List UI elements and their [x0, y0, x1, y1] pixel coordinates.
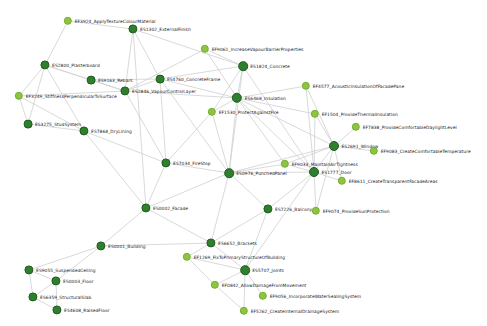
graph-node-ef4577[interactable]	[302, 82, 310, 90]
graph-node-label-ef0842: EF0842_AllowDamageFromMovement	[222, 283, 307, 288]
graph-node-es6359[interactable]	[28, 292, 37, 301]
graph-node-label-ef9083: EF9083_CreateComfortableTemperature	[381, 149, 471, 154]
graph-node-es9055[interactable]	[24, 265, 33, 274]
graph-node-label-ef8611: EF8611_CreateTransparentFacadeAreas	[349, 179, 438, 184]
graph-node-layer[interactable]: EF3924_ApplyTextureColourMaterialES1302_…	[0, 0, 487, 326]
graph-node-label-ef5262: EF5262_CreateInternalDrainageSystem	[251, 309, 339, 314]
graph-node-label-es4760: ES4760_ConcreteFrame	[167, 77, 220, 82]
graph-node-ef3249[interactable]	[15, 92, 23, 100]
graph-node-es0976[interactable]	[224, 168, 234, 178]
graph-node-es6468[interactable]	[232, 93, 242, 103]
graph-node-label-es0002: ES0002_Facade	[153, 206, 188, 211]
graph-node-label-ef4577: EF4577_AcousticInsulationOfFacadePane	[313, 84, 404, 89]
graph-node-label-es2846: ES2846_VapourControlLayer	[132, 89, 196, 94]
graph-node-ef9056[interactable]	[259, 292, 267, 300]
graph-node-ef7838[interactable]	[352, 123, 360, 131]
graph-node-es7034[interactable]	[161, 158, 170, 167]
graph-node-label-es3275: ES3275_StudSystem	[35, 122, 81, 127]
graph-node-label-ef9033: EF9033_MaintainAirTightness	[292, 162, 358, 167]
graph-node-es4760[interactable]	[156, 75, 165, 84]
graph-node-label-es0001: ES0001_Building	[108, 244, 146, 249]
graph-node-label-ef9074: EF9074_ProvideSunProtection	[323, 209, 390, 214]
graph-node-es7868[interactable]	[79, 126, 88, 135]
graph-node-label-es9055: ES9055_SuspendedCeiling	[36, 268, 95, 273]
graph-node-label-es9163: ES9163_Rebars	[98, 78, 133, 83]
graph-node-ef3924[interactable]	[64, 17, 72, 25]
graph-node-ef9083[interactable]	[370, 147, 378, 155]
graph-node-es0001[interactable]	[96, 241, 105, 250]
graph-node-ef1504[interactable]	[311, 110, 319, 118]
graph-node-es5707[interactable]	[240, 265, 250, 275]
graph-node-es6652[interactable]	[206, 238, 215, 247]
graph-node-label-es1777: ES1777_Door	[322, 170, 352, 175]
graph-node-es2846[interactable]	[120, 86, 129, 95]
graph-node-ef0842[interactable]	[211, 281, 219, 289]
graph-node-es7226[interactable]	[263, 204, 272, 213]
graph-node-label-ef1530: EF1530_ProtectAgainstFire	[219, 110, 279, 115]
graph-node-label-es6359: ES6359_StructuralSlab	[40, 295, 91, 300]
graph-node-es0003[interactable]	[51, 276, 60, 285]
graph-node-ef5262[interactable]	[240, 307, 248, 315]
top-border-strip	[0, 0, 487, 3]
graph-node-label-es7868: ES7868_DryLining	[91, 129, 132, 134]
graph-node-label-ef3249: EF3249_StiffnessPerpendicularToSurface	[26, 94, 117, 99]
graph-node-es1302[interactable]	[128, 24, 137, 33]
graph-node-label-ef9061: EF9061_IncreaseVapourBarrierProperties	[212, 47, 304, 52]
graph-node-es0002[interactable]	[141, 203, 150, 212]
graph-node-es2691[interactable]	[329, 141, 339, 151]
graph-node-es3275[interactable]	[24, 120, 33, 129]
graph-node-label-es6652: ES6652_Brackets	[218, 241, 257, 246]
graph-node-label-ef3924: EF3924_ApplyTextureColourMaterial	[75, 19, 156, 24]
graph-node-label-ef9056: EF9056_IncorporateWaterSealingSystem	[270, 294, 361, 299]
graph-node-label-es1302: ES1302_ExternalFinish	[140, 27, 191, 32]
graph-node-label-ef1504: EF1504_ProvideThermalInsulation	[322, 112, 398, 117]
graph-node-label-es1824: ES1824_Concrete	[250, 64, 289, 69]
graph-node-label-es5707: ES5707_Joints	[252, 268, 284, 273]
graph-node-ef8611[interactable]	[338, 177, 346, 185]
graph-node-ef1530[interactable]	[208, 108, 216, 116]
graph-node-label-es0976: ES0976_PunchedPanel	[236, 171, 287, 176]
graph-node-label-es0003: ES0003_Floor	[63, 279, 93, 284]
graph-node-ef9074[interactable]	[312, 207, 320, 215]
graph-node-es1824[interactable]	[238, 61, 248, 71]
graph-node-ef9033[interactable]	[281, 160, 289, 168]
graph-node-es2800[interactable]	[40, 60, 49, 69]
graph-node-ef1269[interactable]	[183, 253, 191, 261]
graph-node-label-es4608: ES4608_RaisedFloor	[64, 308, 109, 313]
graph-node-ef9061[interactable]	[201, 45, 209, 53]
graph-node-es1777[interactable]	[309, 167, 319, 177]
graph-node-label-ef1269: EF1269_FixToPrimaryStructureOfBuilding	[194, 255, 285, 260]
network-graph-canvas[interactable]: EF3924_ApplyTextureColourMaterialES1302_…	[0, 0, 487, 326]
graph-node-label-ef7838: EF7838_ProvideComfortableDaylightLevel	[363, 125, 457, 130]
graph-node-label-es6468: ES6468_Insulation	[245, 96, 286, 101]
graph-node-label-es7226: ES7226_Balcony	[275, 207, 312, 212]
graph-node-es4608[interactable]	[52, 305, 61, 314]
graph-node-es9163[interactable]	[87, 76, 96, 85]
graph-node-label-es7034: ES7034_FireStop	[173, 161, 211, 166]
graph-node-label-es2800: ES2800_Plasterboard	[52, 63, 100, 68]
